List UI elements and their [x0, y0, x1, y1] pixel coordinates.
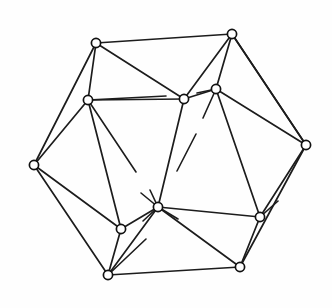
polyhedron-edge — [34, 165, 108, 275]
vertex-upper-right-inner — [211, 84, 220, 93]
icosahedron-figure: Icosahedron line drawing — [0, 0, 332, 308]
polyhedron-edge — [184, 34, 232, 99]
polyhedron-edge — [240, 217, 260, 267]
stub-v7-downright — [88, 100, 136, 172]
vertex-upper-center-inner — [179, 94, 188, 103]
polyhedron-edge — [96, 34, 232, 43]
vertex-top-left-outer — [91, 38, 100, 47]
polyhedron-edge — [158, 207, 240, 267]
vertex-lower-center-inner — [153, 202, 162, 211]
polyhedron-edge — [158, 99, 184, 207]
edge-layer — [34, 34, 306, 275]
polyhedron-edge — [260, 145, 306, 217]
vertex-upper-left-inner — [83, 95, 92, 104]
vertex-lower-right-inner — [255, 212, 264, 221]
polyhedron-edge — [216, 34, 232, 89]
polyhedron-edge — [108, 207, 158, 275]
polyhedron-edge — [232, 34, 306, 145]
stub-v8-downright — [177, 134, 196, 171]
vertex-top-right-outer — [227, 29, 236, 38]
polyhedron-edge — [88, 100, 121, 229]
polyhedron-edge — [96, 43, 184, 99]
vertex-bottom-right-outer — [235, 262, 244, 271]
polyhedron-edge — [216, 89, 260, 217]
vertex-left-outer — [29, 160, 38, 169]
polyhedron-edge — [216, 89, 306, 145]
vertex-lower-left-inner — [116, 224, 125, 233]
polyhedron-edge — [34, 100, 88, 165]
polyhedron-edge — [121, 207, 158, 229]
polyhedron-edge — [108, 267, 240, 275]
vertex-right-outer — [301, 140, 310, 149]
vertex-bottom-left-outer — [103, 270, 112, 279]
